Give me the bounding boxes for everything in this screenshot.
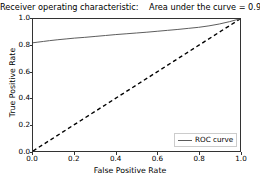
plot-area [32,18,241,152]
roc-chart-figure: Receiver operating characteristic: Area … [0,0,260,179]
x-tick-mark [157,152,158,155]
x-tick-label: 0.8 [184,155,214,163]
x-tick-mark [74,152,75,155]
y-axis-label: True Positive Rate [8,38,17,128]
x-tick-mark [199,152,200,155]
x-tick-label: 0.6 [142,155,172,163]
plot-canvas [33,19,240,151]
x-tick-mark [32,152,33,155]
roc-curve-legend-label: ROC curve [195,136,233,144]
x-tick-label: 0.0 [17,155,47,163]
y-tick-label: 1.0 [6,14,30,22]
x-tick-mark [116,152,117,155]
chart-legend: ROC curve [174,133,237,147]
x-axis-ticks: 0.00.20.40.60.81.0 [0,155,260,165]
chart-title: Receiver operating characteristic: Area … [0,2,260,12]
roc-curve-legend-swatch [178,140,192,141]
x-axis-label: False Positive Rate [0,166,260,175]
x-tick-label: 1.0 [226,155,256,163]
x-tick-label: 0.2 [59,155,89,163]
x-tick-mark [241,152,242,155]
x-tick-label: 0.4 [101,155,131,163]
